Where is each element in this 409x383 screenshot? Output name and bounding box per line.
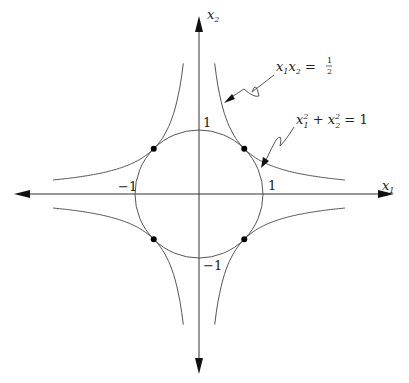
x2-axis-up-arrow-icon [195,16,203,32]
x2-axis-down-arrow-icon [195,358,203,374]
intersection-point [241,236,247,242]
hyperbola-branch-q2 [53,63,183,180]
x2-axis-label: x2 [207,7,219,24]
circle-equation-label: x21 + x22 = 1 [296,112,368,130]
intersection-point [151,236,157,242]
tick-label-y-neg: −1 [203,258,222,273]
tick-label-x-neg: −1 [118,179,137,194]
circle-pointer-arrowhead-icon [261,157,269,168]
intersection-point [151,146,157,152]
hyperbola-pointer [230,75,274,98]
hyperbola-equation-label: x1x2 = [276,59,316,76]
hyperbola-branch-q3 [53,208,183,325]
tick-label-x-pos: 1 [268,178,276,193]
x1-axis-left-arrow-icon [14,190,30,198]
hyperbola-label-denominator: 2 [327,67,332,76]
hyperbola-label-numerator: 1 [327,56,332,65]
diagram-canvas: x1 x2 1 −1 1 −1 x1x2 = 1 2 x21 + x22 = 1 [0,0,409,383]
hyperbola-branch-q4 [215,208,345,325]
intersection-point [241,146,247,152]
circle-pointer [266,127,294,160]
x1-axis-label: x1 [382,178,394,195]
tick-label-y-pos: 1 [203,115,211,130]
